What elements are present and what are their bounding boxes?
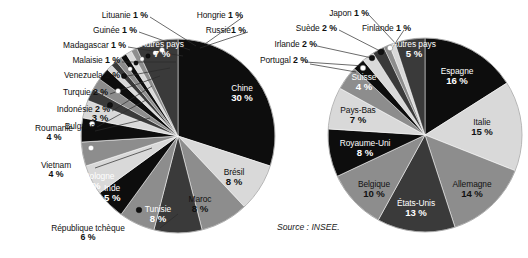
callout-hongrie: Hongrie 1 % [151, 11, 243, 21]
slice-label-tunisie: Tunisie 8 % [132, 205, 184, 224]
slice-label-autres-pays-right: Autres pays 5 % [392, 40, 436, 59]
callout-malaisie: Malaisie 1 % [20, 56, 120, 66]
slice-label-chine: Chine 30 % [209, 84, 275, 103]
callout-turquie: Turquie 2 % [14, 88, 108, 98]
callout-guinee: Guinée 1 % [37, 26, 137, 36]
callout-portugal: Portugal 2 % [222, 56, 308, 66]
pie-charts-figure: Chine 30 % Brésil 8 % Maroc 8 % Tunisie … [0, 0, 528, 258]
callout-republique-tcheque: République tchèque 6 % [18, 224, 158, 242]
source-note: Source : INSEE. [277, 222, 340, 232]
callout-roumanie: Roumanie 4 % [16, 124, 92, 142]
slice-label-suisse: Suisse 4 % [340, 73, 388, 92]
callout-indonesie: Indonésie 2 % [6, 105, 110, 115]
callout-venezuela: Venezuela 2 % [14, 71, 120, 81]
callout-japon: Japon 1 % [287, 9, 369, 19]
slice-label-espagne: Espagne 16 % [425, 67, 489, 86]
slice-label-etats-unis: États-Unis 13 % [385, 199, 447, 218]
callout-madagascar: Madagascar 1 % [16, 41, 126, 51]
slice-label-italie: Italie 15 % [455, 118, 509, 137]
callout-vietnam: Vietnam 4 % [20, 161, 92, 179]
slice-label-royaume-uni: Royaume-Uni 8 % [326, 139, 404, 158]
callout-lituanie: Lituanie 1 % [48, 11, 148, 21]
slice-label-allemagne: Allemagne 14 % [437, 180, 507, 199]
slice-label-autres-pays-left: Autres pays 7 % [140, 40, 184, 59]
slice-label-belgique: Belgique 10 % [345, 180, 403, 199]
callout-irlande: Irlande 2 % [235, 40, 317, 50]
slice-label-bresil: Brésil 8 % [203, 168, 265, 187]
callout-finlande: Finlande 1 % [362, 24, 454, 34]
callout-russie: Russie1 % [156, 26, 246, 36]
slice-label-pays-bas: Pays-Bas 7 % [329, 106, 387, 125]
callout-suede: Suède 2 % [253, 24, 337, 34]
